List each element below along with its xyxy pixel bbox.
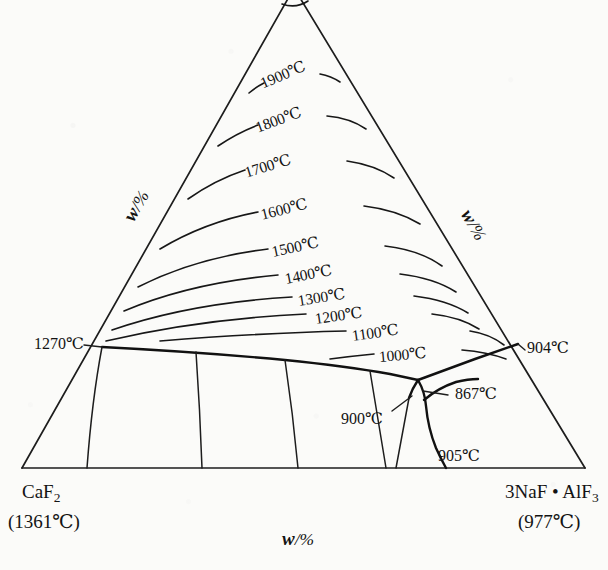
cryolite-formula-sub: 3: [592, 490, 599, 505]
isotherm-1200-right: [432, 314, 479, 329]
boundary-eutectic-lower-left: [409, 380, 418, 398]
isotherm-1400-left: [124, 275, 278, 311]
isotherm-1600-left: [160, 212, 258, 249]
isotherm-1300-left: [112, 297, 292, 330]
eutectic-label-904: 904℃: [527, 340, 569, 356]
tieline-3: [285, 360, 298, 468]
isotherm-1300-right: [414, 296, 468, 313]
eutectic-label-905: 905℃: [438, 448, 480, 464]
leader-1270: [84, 345, 102, 347]
isotherm-1000-left: [330, 354, 374, 359]
tieline-5: [396, 398, 409, 468]
caf2-formula-sub: 2: [54, 490, 61, 505]
axis-label-bottom: w/%: [282, 529, 314, 549]
isotherm-1500-right: [385, 246, 442, 266]
leader-904: [518, 344, 525, 350]
axis-bottom-symbol: w: [282, 528, 295, 549]
phase-diagram-figure: 1900℃ 1800℃ 1700℃ 1600℃ 1500℃ 1400℃ 1300…: [0, 0, 608, 570]
corner-label-left-melting-point: (1361℃): [8, 512, 80, 531]
isotherm-1400-right: [400, 274, 456, 292]
triangle-left-edge: [22, 0, 294, 468]
leader-900: [392, 396, 412, 411]
corner-label-right-formula: 3NaF • AlF3: [505, 482, 599, 504]
boundary-eutectic-to-904: [418, 344, 518, 380]
axis-bottom-unit: /%: [295, 529, 314, 549]
cryolite-formula-main: 3NaF • AlF: [505, 481, 592, 502]
isotherm-1800-left: [218, 125, 258, 146]
isotherm-1900-right: [320, 74, 340, 82]
corner-label-left-formula: CaF2: [22, 482, 60, 504]
triangle-right-edge: [294, 0, 585, 468]
eutectic-label-867: 867℃: [455, 386, 497, 402]
isotherm-1700-left: [188, 170, 245, 199]
isotherm-1600-right: [364, 206, 420, 224]
isotherm-1800-right: [327, 116, 366, 129]
isotherm-1100-left: [160, 331, 346, 341]
isotherm-1700-right: [347, 161, 394, 178]
caf2-formula-main: CaF: [22, 481, 54, 502]
eutectic-label-1270: 1270℃: [34, 336, 84, 352]
eutectic-label-900: 900℃: [341, 411, 383, 427]
subsolidus-tie-lines: [87, 347, 409, 468]
isotherm-1100-right: [470, 331, 504, 345]
tieline-1: [87, 347, 102, 468]
corner-label-right-melting-point: (977℃): [518, 512, 580, 531]
tieline-2: [196, 352, 202, 468]
isotherm-1500-left: [138, 249, 268, 287]
